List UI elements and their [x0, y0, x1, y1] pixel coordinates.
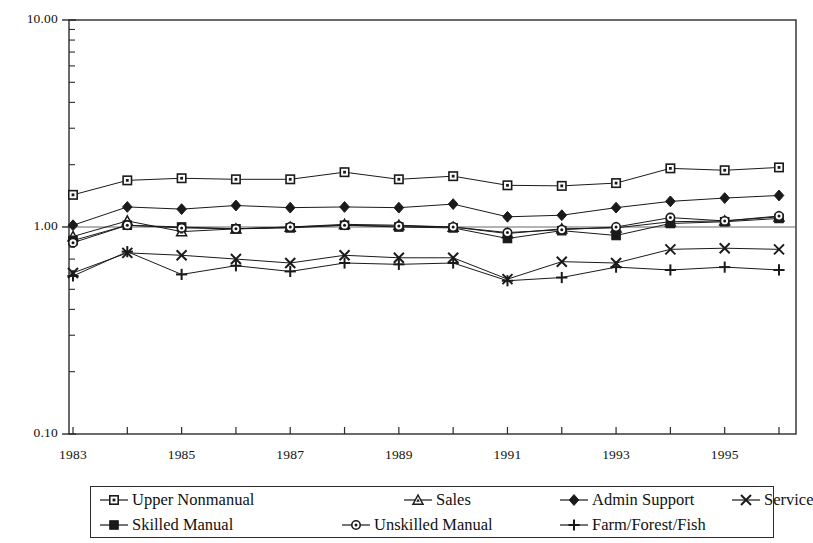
legend-row-2: Skilled ManualUnskilled ManualFarm/Fores…	[91, 512, 773, 538]
data-point	[69, 191, 77, 199]
data-point	[394, 202, 404, 213]
data-point	[666, 213, 674, 221]
data-point	[177, 224, 185, 232]
series-admin-support	[68, 190, 784, 231]
data-point	[177, 204, 187, 215]
legend-item-label: Admin Support	[592, 492, 694, 509]
chart-svg	[0, 0, 812, 480]
series-upper-nonmanual	[69, 163, 783, 199]
data-point	[123, 202, 133, 213]
data-point	[612, 179, 620, 187]
x-axis-label: 1983	[43, 447, 103, 463]
data-point	[395, 175, 403, 183]
data-point	[448, 199, 458, 210]
legend-row-1: Upper NonmanualSalesAdmin SupportService	[91, 487, 773, 513]
legend-marker-open-triangle-icon	[403, 490, 433, 510]
legend-item-label: Skilled Manual	[132, 517, 233, 534]
data-point	[666, 196, 676, 207]
data-point	[719, 262, 730, 273]
legend-item-farm-forest-fish[interactable]: Farm/Forest/Fish	[559, 512, 706, 538]
legend-marker-filled-square-icon	[99, 515, 129, 535]
legend-marker-open-circle-icon	[341, 515, 371, 535]
data-point	[232, 225, 240, 233]
data-point	[123, 176, 131, 184]
legend-item-sales[interactable]: Sales	[403, 487, 471, 513]
data-point	[666, 164, 674, 172]
legend-item-admin-support[interactable]: Admin Support	[559, 487, 694, 513]
data-point	[232, 175, 240, 183]
data-point	[612, 231, 620, 239]
series-line	[73, 252, 779, 281]
data-point	[340, 168, 348, 176]
legend-item-label: Farm/Forest/Fish	[592, 517, 706, 534]
data-point	[176, 269, 187, 280]
legend-item-skilled-manual[interactable]: Skilled Manual	[99, 512, 233, 538]
data-point	[556, 272, 567, 283]
y-axis-label: 0.10	[6, 425, 58, 441]
data-point	[558, 182, 566, 190]
legend-item-unskilled-manual[interactable]: Unskilled Manual	[341, 512, 493, 538]
legend-item-label: Service	[764, 492, 813, 509]
legend-item-service[interactable]: Service	[731, 487, 813, 513]
data-point	[503, 181, 511, 189]
data-point	[69, 238, 77, 246]
y-axis-label: 1.00	[6, 218, 58, 234]
data-point	[449, 223, 457, 231]
data-point	[720, 217, 728, 225]
data-point	[775, 163, 783, 171]
data-point	[340, 202, 350, 213]
data-point	[720, 193, 730, 204]
legend-marker-x-cross-icon	[731, 490, 761, 510]
data-point	[449, 172, 457, 180]
data-point	[340, 221, 348, 229]
x-axis-label: 1989	[369, 447, 429, 463]
x-axis-label: 1991	[477, 447, 537, 463]
data-point	[720, 166, 728, 174]
data-point	[123, 221, 131, 229]
data-point	[612, 223, 620, 231]
data-point	[611, 202, 621, 213]
chart-plot-area: 10.001.000.10198319851987198919911993199…	[0, 0, 812, 480]
data-point	[502, 275, 513, 286]
y-axis-label: 10.00	[6, 11, 58, 27]
series-unskilled-manual	[69, 212, 783, 247]
data-point	[285, 202, 295, 213]
legend-item-label: Unskilled Manual	[374, 517, 493, 534]
data-point	[665, 264, 676, 275]
series-farm-forest-fish	[67, 246, 784, 286]
legend-marker-filled-diamond-icon	[559, 490, 589, 510]
x-axis-label: 1987	[260, 447, 320, 463]
legend-item-label: Upper Nonmanual	[132, 492, 254, 509]
data-point	[286, 175, 294, 183]
chart-legend: Upper NonmanualSalesAdmin SupportService…	[90, 486, 774, 538]
x-axis-label: 1995	[695, 447, 755, 463]
series-skilled-manual	[69, 214, 783, 245]
data-point	[774, 190, 784, 201]
data-point	[231, 200, 241, 211]
legend-item-label: Sales	[436, 492, 471, 509]
legend-item-upper-nonmanual[interactable]: Upper Nonmanual	[99, 487, 254, 513]
data-point	[503, 211, 513, 222]
data-point	[503, 228, 511, 236]
legend-marker-plus-icon	[559, 515, 589, 535]
data-point	[395, 222, 403, 230]
data-point	[286, 223, 294, 231]
data-point	[557, 210, 567, 221]
legend-marker-open-square-icon	[99, 490, 129, 510]
x-axis-label: 1993	[586, 447, 646, 463]
data-point	[773, 264, 784, 275]
data-point	[775, 212, 783, 220]
data-point	[177, 174, 185, 182]
x-axis-label: 1985	[152, 447, 212, 463]
data-point	[558, 226, 566, 234]
